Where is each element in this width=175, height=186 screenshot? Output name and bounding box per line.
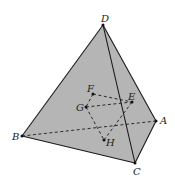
label-B: B	[11, 131, 19, 142]
label-H: H	[105, 137, 115, 148]
label-C: C	[133, 166, 141, 177]
point-C	[134, 162, 137, 165]
label-A: A	[159, 115, 167, 126]
label-D: D	[100, 13, 109, 24]
label-F: F	[86, 83, 95, 94]
tetrahedron-face	[22, 25, 156, 163]
label-E: E	[127, 91, 136, 102]
label-G: G	[76, 102, 84, 113]
point-A	[155, 120, 158, 123]
tetrahedron-diagram: A B C D E F G H	[0, 0, 175, 186]
point-G	[85, 106, 88, 109]
point-B	[21, 135, 24, 138]
